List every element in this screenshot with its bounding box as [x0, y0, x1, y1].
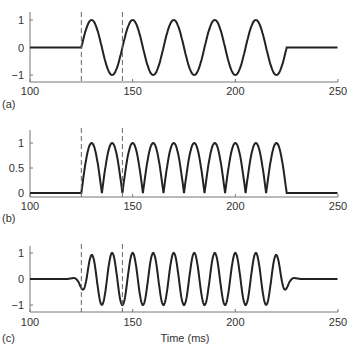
panel-label-b: (b) [2, 212, 15, 224]
x-tick-label: 200 [226, 200, 244, 212]
y-tick-label: −1 [11, 69, 24, 81]
x-tick-label: 100 [21, 316, 39, 328]
y-tick-label: 0 [18, 187, 24, 199]
chart-figure: −101100150200250 (a) 00.51100150200250 (… [0, 0, 359, 356]
y-tick-label: 1 [18, 247, 24, 259]
panel-c: −101100150200250 (c) Time (ms) [2, 244, 347, 344]
filtered-curve-c [30, 253, 338, 305]
x-tick-label: 100 [21, 85, 39, 97]
y-tick-label: 0 [18, 42, 24, 54]
x-tick-label: 250 [329, 316, 347, 328]
y-tick-label: 0.5 [9, 162, 24, 174]
y-tick-label: −1 [11, 299, 24, 311]
y-tick-label: 1 [18, 137, 24, 149]
x-tick-label: 250 [329, 85, 347, 97]
x-tick-label: 150 [123, 200, 141, 212]
x-tick-label: 200 [226, 85, 244, 97]
ticks-b: 00.51100150200250 [9, 137, 347, 212]
x-tick-label: 250 [329, 200, 347, 212]
x-tick-label: 150 [123, 316, 141, 328]
panel-label-a: (a) [2, 98, 15, 110]
signal-curve-a [30, 20, 338, 75]
panel-label-c: (c) [2, 332, 15, 344]
x-tick-label: 100 [21, 200, 39, 212]
x-tick-label: 200 [226, 316, 244, 328]
panel-a: −101100150200250 (a) [2, 12, 347, 110]
x-tick-label: 150 [123, 85, 141, 97]
y-tick-label: 1 [18, 14, 24, 26]
rectified-curve-b [30, 143, 338, 193]
x-axis-title: Time (ms) [160, 332, 209, 344]
y-tick-label: 0 [18, 273, 24, 285]
panel-b: 00.51100150200250 (b) [2, 128, 347, 224]
